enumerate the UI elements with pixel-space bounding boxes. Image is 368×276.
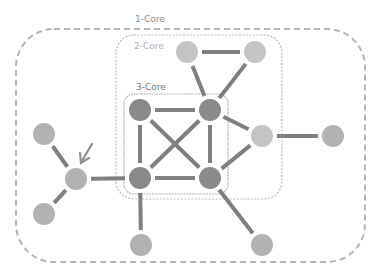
node-n3a	[129, 99, 151, 121]
node-n2c	[251, 125, 273, 147]
node-n3d	[199, 167, 221, 189]
edge-n2b-n3b	[219, 64, 246, 98]
edge-n3c-n1d	[140, 193, 141, 230]
node-n1c	[33, 203, 55, 225]
node-n1b	[33, 123, 55, 145]
node-n1hub	[65, 168, 87, 190]
edge-n3b-n2c	[223, 117, 248, 130]
core1-boundary	[16, 29, 365, 262]
node-n2a	[176, 41, 198, 63]
edge-n1hub-n1b	[53, 146, 68, 167]
node-n1a	[322, 125, 344, 147]
core2-label: 2-Core	[134, 41, 164, 51]
edge-n1hub-n3c	[91, 178, 125, 179]
node-n1d	[130, 234, 152, 256]
edge-n2a-n3b	[193, 66, 205, 96]
node-n1e	[251, 234, 273, 256]
nodes-group	[33, 41, 344, 256]
arrow-icon	[80, 144, 92, 163]
node-n3c	[129, 167, 151, 189]
edge-n3d-n1e	[219, 190, 253, 233]
node-n2b	[244, 41, 266, 63]
node-n3b	[199, 99, 221, 121]
core1-label: 1-Core	[135, 14, 165, 24]
edge-n1hub-n1c	[54, 190, 66, 203]
edge-n3d-n2c	[222, 145, 251, 168]
k-core-diagram: 1-Core 2-Core 3-Core	[0, 0, 368, 276]
core3-label: 3-Core	[136, 82, 166, 92]
edges-group	[53, 52, 318, 233]
